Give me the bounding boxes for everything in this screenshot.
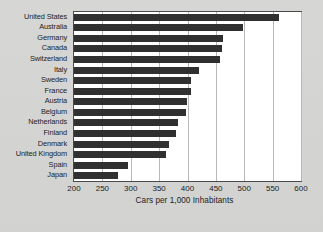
y-axis-label: Sweden bbox=[41, 75, 67, 84]
x-axis-tick-label: 450 bbox=[209, 183, 222, 194]
x-axis-tick-label: 350 bbox=[152, 183, 165, 194]
y-axis-label: Australia bbox=[39, 22, 67, 31]
bar-fill bbox=[74, 24, 243, 31]
bar-fill bbox=[74, 56, 220, 63]
bar-chart: United StatesAustraliaGermanyCanadaSwitz… bbox=[0, 0, 323, 232]
gridline bbox=[301, 12, 302, 181]
bar-fill bbox=[74, 14, 279, 21]
bar-fill bbox=[74, 162, 128, 169]
x-axis-tick-label: 600 bbox=[294, 183, 307, 194]
bar-fill bbox=[74, 45, 222, 52]
bar bbox=[74, 45, 222, 52]
bar-series bbox=[74, 12, 301, 181]
x-axis-tick-labels: 200250300350400450500550600 bbox=[73, 183, 302, 195]
bar-fill bbox=[74, 88, 191, 95]
bar bbox=[74, 130, 176, 137]
bar bbox=[74, 24, 243, 31]
x-axis-tick-label: 250 bbox=[96, 183, 109, 194]
x-axis-tick-label: 500 bbox=[238, 183, 251, 194]
bar-fill bbox=[74, 151, 166, 158]
y-axis-label: Germany bbox=[37, 33, 67, 42]
y-axis-label: Switzerland bbox=[30, 54, 67, 63]
x-axis-title-text: Cars per 1,000 Inhabitants bbox=[136, 196, 234, 205]
x-axis-tick-label: 200 bbox=[67, 183, 80, 194]
bar bbox=[74, 172, 118, 179]
x-axis-tick-label: 300 bbox=[124, 183, 137, 194]
y-axis-label: United Kingdom bbox=[16, 149, 67, 158]
y-axis-label: Canada bbox=[42, 43, 67, 52]
bar-fill bbox=[74, 141, 169, 148]
bar bbox=[74, 56, 220, 63]
bar bbox=[74, 14, 279, 21]
y-axis-label: Belgium bbox=[41, 107, 67, 116]
bar-fill bbox=[74, 35, 223, 42]
y-axis-label: France bbox=[45, 86, 67, 95]
x-axis-tick-label: 400 bbox=[181, 183, 194, 194]
bar bbox=[74, 35, 223, 42]
bar bbox=[74, 119, 178, 126]
bar-fill bbox=[74, 98, 187, 105]
bar-fill bbox=[74, 172, 118, 179]
x-axis-title: Cars per 1,000 Inhabitants bbox=[0, 196, 323, 205]
bar-fill bbox=[74, 119, 178, 126]
bar bbox=[74, 98, 187, 105]
bar bbox=[74, 88, 191, 95]
y-axis-label: Denmark bbox=[38, 139, 67, 148]
y-axis-label: Spain bbox=[49, 160, 67, 169]
bar-fill bbox=[74, 77, 191, 84]
y-axis-category-labels: United StatesAustraliaGermanyCanadaSwitz… bbox=[0, 11, 70, 182]
y-axis-label: Italy bbox=[54, 65, 67, 74]
plot-area bbox=[73, 11, 302, 182]
y-axis-label: Finland bbox=[43, 128, 67, 137]
bar bbox=[74, 77, 191, 84]
bar-fill bbox=[74, 109, 186, 116]
x-axis-tick-label: 550 bbox=[266, 183, 279, 194]
bar bbox=[74, 141, 169, 148]
y-axis-label: United States bbox=[24, 12, 67, 21]
bar-fill bbox=[74, 130, 176, 137]
bar bbox=[74, 67, 199, 74]
bar bbox=[74, 151, 166, 158]
bar-fill bbox=[74, 67, 199, 74]
y-axis-label: Netherlands bbox=[28, 117, 67, 126]
bar bbox=[74, 162, 128, 169]
y-axis-label: Japan bbox=[47, 170, 67, 179]
y-axis-label: Austria bbox=[45, 96, 67, 105]
bar bbox=[74, 109, 186, 116]
